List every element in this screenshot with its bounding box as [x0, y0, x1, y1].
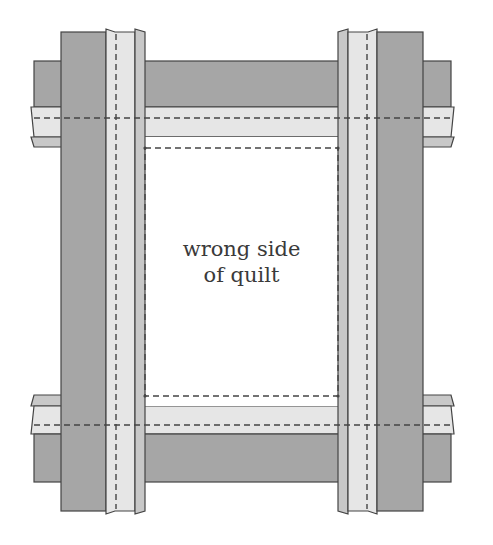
right-vertical-band [338, 29, 423, 514]
label-line-2: of quilt [145, 262, 338, 288]
center-label: wrong side of quilt [145, 236, 338, 288]
left-vertical-band [61, 29, 145, 514]
label-line-1: wrong side [145, 236, 338, 262]
